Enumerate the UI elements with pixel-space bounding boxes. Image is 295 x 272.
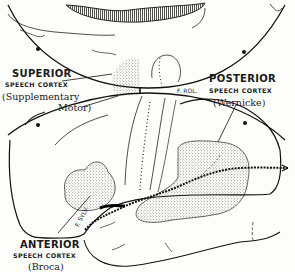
temporal-lobe-outline: [84, 232, 280, 266]
superior-label-title: SUPERIOR: [12, 69, 72, 79]
brain-drawing: [0, 0, 295, 272]
posterior-label-title: POSTERIOR: [209, 74, 276, 84]
superior-label-sub: SPEECH CORTEX: [5, 82, 68, 88]
brain-speech-cortex-diagram: SUPERIOR SPEECH CORTEX (Supplementary Mo…: [0, 0, 295, 272]
anterior-label-sub: SPEECH CORTEX: [13, 253, 76, 259]
superior-label-name-2: Motor): [58, 103, 91, 113]
superior-label-name-1: (Supplementary: [2, 92, 79, 102]
corpus-callosum: [66, 3, 205, 22]
anterior-speech-cortex-area: [64, 162, 115, 211]
fissure-rolando-label: F. ROL.: [177, 88, 197, 94]
anterior-label-title: ANTERIOR: [20, 240, 80, 250]
posterior-speech-cortex-area: [136, 141, 249, 222]
posterior-label-name: (Wernicke): [213, 98, 265, 108]
posterior-label-sub: SPEECH CORTEX: [209, 88, 272, 94]
anterior-label-name: (Broca): [28, 262, 64, 272]
superior-speech-cortex-area: [112, 58, 140, 96]
